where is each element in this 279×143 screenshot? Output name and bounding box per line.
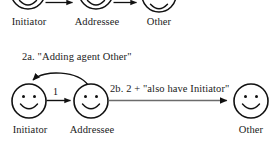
- edge-label-2b: 2b. 2 + "also have Initiator": [110, 83, 229, 94]
- bottom-label-initiator: Initiator: [3, 124, 57, 135]
- eye-icon: [244, 95, 247, 98]
- eye-icon: [22, 95, 25, 98]
- step-2a-caption: 2a. "Adding agent Other": [22, 51, 132, 63]
- face-addressee-bottom: [74, 84, 108, 118]
- figure-canvas: Initiator Addressee Other 2a. "Adding ag…: [0, 0, 279, 143]
- face-initiator-top: [11, 0, 45, 9]
- edge-label-1: 1: [53, 86, 58, 97]
- eye-icon: [84, 95, 87, 98]
- top-label-other: Other: [136, 16, 182, 27]
- face-addressee-top: [79, 0, 113, 9]
- bottom-label-other: Other: [228, 124, 274, 135]
- top-row-group: [11, 0, 176, 12]
- face-initiator-bottom: [12, 84, 46, 118]
- eye-icon: [95, 95, 98, 98]
- face-other-top: [142, 0, 176, 12]
- arrow-addressee-to-initiator-curve: [33, 73, 88, 85]
- face-other-bottom: [234, 84, 268, 118]
- eye-icon: [33, 95, 36, 98]
- top-label-initiator: Initiator: [2, 16, 56, 27]
- eye-icon: [255, 95, 258, 98]
- top-label-addressee: Addressee: [66, 16, 128, 27]
- bottom-label-addressee: Addressee: [61, 124, 123, 135]
- bottom-row-group: [12, 73, 268, 118]
